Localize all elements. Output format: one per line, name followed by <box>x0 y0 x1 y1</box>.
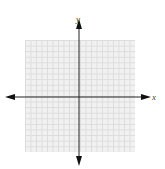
y-axis-label: y <box>76 14 80 24</box>
coordinate-plane: x y <box>0 0 165 169</box>
y-axis-down-arrow-icon <box>76 156 82 166</box>
axes <box>0 0 165 169</box>
x-axis-left-arrow-icon <box>5 94 15 100</box>
x-axis-label: x <box>152 92 156 102</box>
x-axis-right-arrow-icon <box>141 94 151 100</box>
